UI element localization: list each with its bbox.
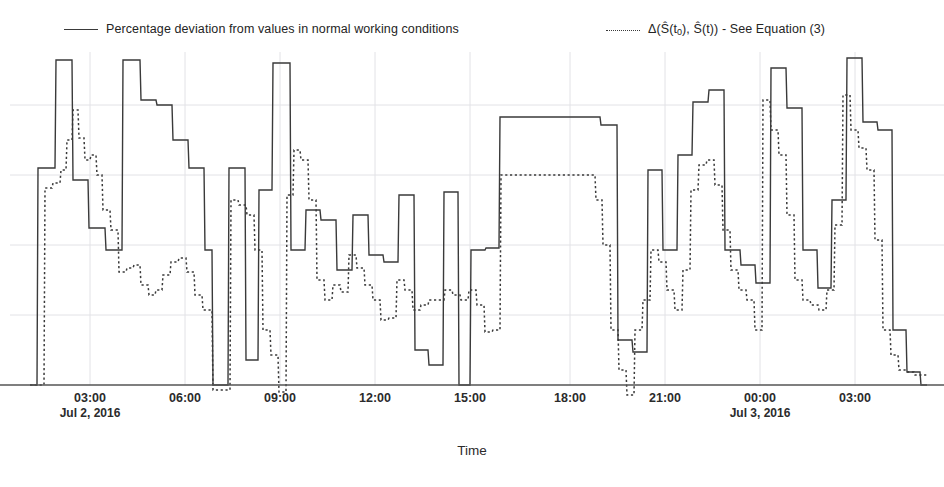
x-tick-5: 18:00	[554, 390, 586, 406]
x-tick-time-2: 09:00	[264, 390, 296, 406]
x-axis-tick-labels: 03:00Jul 2, 201606:0009:0012:0015:0018:0…	[0, 390, 944, 436]
chart-svg	[0, 0, 944, 400]
gridlines	[10, 105, 944, 315]
x-tick-time-0: 03:00	[60, 390, 121, 406]
x-tick-0: 03:00Jul 2, 2016	[60, 390, 121, 421]
x-tick-time-1: 06:00	[169, 390, 201, 406]
plot-area	[0, 0, 944, 400]
chart-figure: Percentage deviation from values in norm…	[0, 0, 944, 487]
x-tick-time-3: 12:00	[359, 390, 391, 406]
x-tick-time-5: 18:00	[554, 390, 586, 406]
series-layer	[30, 58, 927, 395]
x-axis-title: Time	[0, 443, 944, 458]
x-tick-date-7: Jul 3, 2016	[730, 406, 791, 421]
x-tick-1: 06:00	[169, 390, 201, 406]
x-tick-8: 03:00	[839, 390, 871, 406]
x-tick-3: 12:00	[359, 390, 391, 406]
x-tick-7: 00:00Jul 3, 2016	[730, 390, 791, 421]
x-tick-time-4: 15:00	[454, 390, 486, 406]
x-tick-time-8: 03:00	[839, 390, 871, 406]
series-path-0	[30, 58, 927, 385]
x-tick-2: 09:00	[264, 390, 296, 406]
x-tick-time-7: 00:00	[730, 390, 791, 406]
x-tick-date-0: Jul 2, 2016	[60, 406, 121, 421]
x-tick-6: 21:00	[649, 390, 681, 406]
x-tick-time-6: 21:00	[649, 390, 681, 406]
x-tick-4: 15:00	[454, 390, 486, 406]
